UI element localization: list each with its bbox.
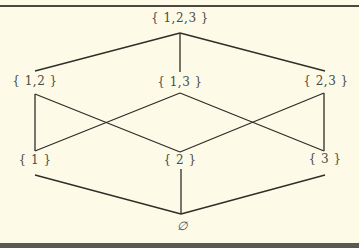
edges-layer [0, 0, 359, 248]
edge-1-empty [35, 175, 181, 214]
node-set-13: { 1,3 } [157, 75, 202, 89]
edge-3-empty [181, 175, 325, 214]
node-set-12: { 1,2 } [12, 74, 57, 88]
edge-13-1 [35, 93, 180, 151]
node-set-123: { 1,2,3 } [151, 11, 209, 25]
frame-bottom-border [0, 243, 359, 248]
edge-12-2 [35, 94, 180, 152]
edge-123-23 [180, 33, 325, 71]
node-set-1: { 1 } [18, 153, 51, 167]
edge-123-12 [35, 33, 180, 71]
node-empty-set: ∅ [177, 219, 188, 233]
hasse-diagram: { 1,2,3 } { 1,2 } { 1,3 } { 2,3 } { 1 } … [0, 0, 359, 248]
node-set-23: { 2,3 } [303, 74, 348, 88]
node-set-2: { 2 } [163, 153, 196, 167]
node-set-3: { 3 } [308, 152, 341, 166]
